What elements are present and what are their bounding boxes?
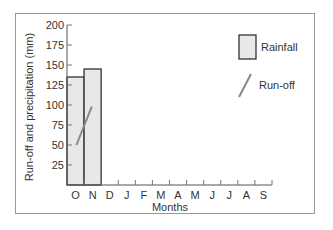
x-tick-label: J	[124, 189, 130, 201]
y-tick-label: 150	[46, 59, 64, 71]
y-tick-label: 175	[46, 39, 64, 51]
rainfall-bar	[84, 69, 101, 185]
legend-rainfall-swatch	[239, 35, 256, 59]
x-tick-label: F	[141, 189, 148, 201]
x-tick-label: S	[260, 189, 267, 201]
x-tick-label: D	[106, 189, 114, 201]
x-tick-label: A	[174, 189, 182, 201]
y-tick-label: 100	[46, 99, 64, 111]
legend-runoff-label: Run-off	[259, 79, 296, 91]
x-tick-label: M	[191, 189, 200, 201]
legend-runoff-swatch	[239, 74, 251, 97]
x-tick-label: J	[209, 189, 215, 201]
x-tick-label: N	[89, 189, 97, 201]
y-tick-label: 25	[52, 159, 64, 171]
chart-plot: 255075100125150175200ONDJFMAMJJASMonthsR…	[0, 0, 333, 230]
x-tick-label: O	[71, 189, 80, 201]
y-tick-label: 125	[46, 79, 64, 91]
y-tick-label: 75	[52, 119, 64, 131]
y-tick-label: 200	[46, 19, 64, 31]
x-tick-label: J	[227, 189, 233, 201]
y-tick-label: 50	[52, 139, 64, 151]
x-tick-label: M	[156, 189, 165, 201]
x-tick-label: A	[243, 189, 251, 201]
y-axis-title: Run-off and precipitation (mm)	[23, 33, 35, 181]
x-axis-title: Months	[152, 201, 189, 213]
legend-rainfall-label: Rainfall	[261, 41, 298, 53]
